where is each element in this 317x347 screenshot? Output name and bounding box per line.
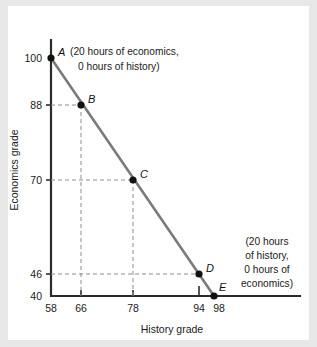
data-point-c[interactable] (129, 176, 136, 183)
point-label-b: B (88, 93, 95, 105)
data-point-b[interactable] (77, 101, 84, 108)
point-label-a: A (57, 46, 65, 58)
data-point-e[interactable] (210, 292, 217, 299)
y-axis-title: Economics grade (8, 129, 20, 210)
x-tick-label-98: 98 (213, 302, 225, 314)
annotation-e-line3: 0 hours of (244, 264, 289, 275)
annotation-a-line1: (20 hours of economics, (70, 46, 179, 57)
y-tick-label-70: 70 (30, 174, 42, 186)
x-tick-label-58: 58 (45, 302, 57, 314)
x-tick-label-78: 78 (127, 302, 139, 314)
x-tick-label-94: 94 (193, 302, 205, 314)
y-tick-label-40: 40 (30, 290, 42, 302)
ppf-chart: A B C D E 100 88 70 46 40 58 66 78 94 98… (0, 0, 317, 347)
y-tick-label-88: 88 (30, 99, 42, 111)
annotation-e-line2: of history, (245, 250, 288, 261)
y-tick-label-100: 100 (24, 52, 42, 64)
x-axis-title: History grade (141, 323, 204, 335)
annotation-e-line1: (20 hours (245, 236, 288, 247)
chart-container: A B C D E 100 88 70 46 40 58 66 78 94 98… (0, 0, 317, 347)
point-label-c: C (140, 168, 148, 180)
point-label-d: D (206, 262, 214, 274)
data-point-d[interactable] (195, 270, 202, 277)
annotation-a-line2: 0 hours of history) (78, 61, 160, 72)
annotation-e-line4: economics) (241, 278, 293, 289)
x-tick-label-66: 66 (75, 302, 87, 314)
data-point-a[interactable] (47, 54, 54, 61)
y-tick-label-46: 46 (30, 268, 42, 280)
point-label-e: E (219, 281, 227, 293)
